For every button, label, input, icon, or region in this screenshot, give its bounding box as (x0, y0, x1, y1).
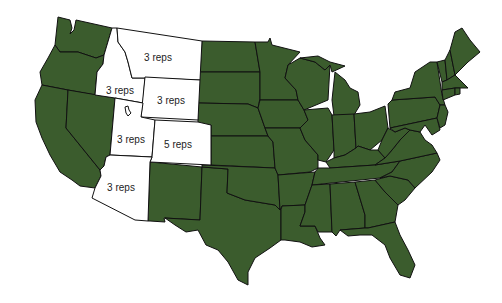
state-florida[interactable] (340, 222, 415, 278)
label-idaho: 3 reps (106, 85, 134, 96)
state-maine[interactable] (450, 28, 480, 75)
label-arizona: 3 reps (107, 182, 135, 193)
state-new-mexico[interactable] (148, 162, 202, 222)
state-rhode-island[interactable] (455, 88, 460, 95)
label-montana: 3 reps (144, 52, 172, 63)
state-connecticut[interactable] (442, 88, 455, 100)
label-colorado: 5 reps (164, 139, 192, 150)
state-kansas[interactable] (211, 136, 275, 168)
state-south-dakota[interactable] (198, 72, 260, 108)
label-utah: 3 reps (117, 134, 145, 145)
us-map (0, 0, 502, 303)
label-wyoming: 3 reps (157, 95, 185, 106)
green-states (35, 17, 480, 285)
state-north-dakota[interactable] (200, 41, 260, 72)
state-new-york[interactable] (392, 62, 445, 105)
